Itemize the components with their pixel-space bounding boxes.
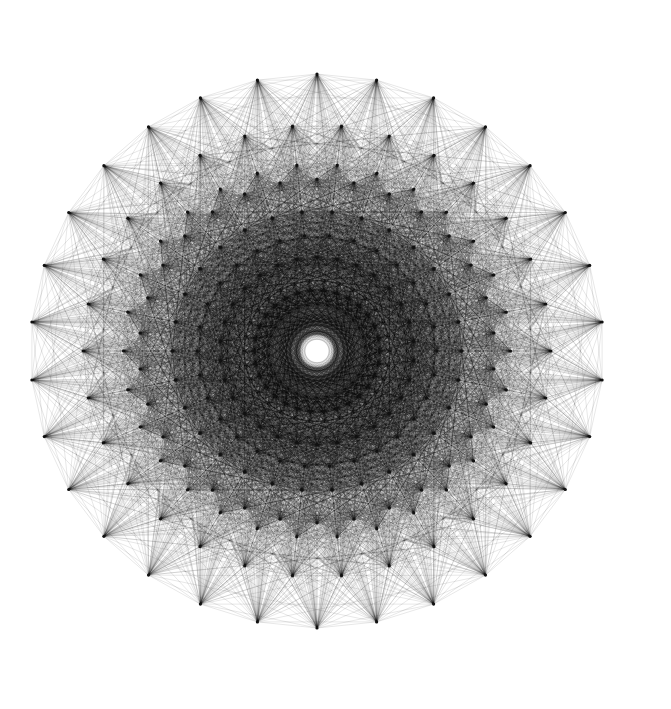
graph-vertex [425,397,428,400]
graph-vertex [67,211,70,214]
graph-vertex [322,289,325,292]
graph-vertex [264,314,267,317]
graph-vertex [291,125,294,128]
graph-vertex [278,460,281,463]
graph-vertex [432,96,435,99]
graph-vertex [412,340,415,343]
graph-vertex [255,450,258,453]
graph-vertex [206,397,209,400]
graph-vertex [328,465,331,468]
graph-vertex [303,465,306,468]
graph-vertex [218,245,221,248]
graph-vertex [295,441,298,444]
graph-vertex [195,349,198,352]
graph-vertex [331,210,334,213]
graph-vertex [340,125,343,128]
graph-vertex [159,181,162,184]
graph-vertex [388,564,391,567]
graph-vertex [146,403,149,406]
graph-vertex [396,436,399,439]
graph-vertex [358,395,361,398]
graph-vertex [198,545,201,548]
graph-vertex [347,297,350,300]
graph-vertex [199,96,202,99]
graph-vertex [138,331,141,334]
graph-vertex [388,412,391,415]
graph-vertex [223,320,226,323]
graph-vertex [331,489,334,492]
graph-vertex [425,302,428,305]
graph-vertex [146,296,149,299]
graph-vertex [484,574,487,577]
graph-vertex [315,626,318,629]
graph-vertex [309,410,312,413]
graph-vertex [412,188,415,191]
graph-vertex [375,527,378,530]
graph-vertex [375,450,378,453]
graph-vertex [256,620,259,623]
graph-vertex [278,181,281,184]
graph-vertex [198,432,201,435]
graph-vertex [432,545,435,548]
graph-vertex [360,483,363,486]
graph-vertex [219,340,222,343]
graph-vertex [529,164,532,167]
graph-vertex [171,349,174,352]
graph-vertex [375,249,378,252]
graph-vertex [271,483,274,486]
graph-vertex [303,234,306,237]
graph-vertex [433,325,436,328]
graph-vertex [375,79,378,82]
graph-vertex [67,488,70,491]
graph-vertex [448,234,451,237]
graph-vertex [273,304,276,307]
graph-vertex [335,291,338,294]
graph-vertex [243,412,246,415]
graph-vertex [258,273,261,276]
graph-vertex [223,378,226,381]
graph-vertex [373,374,376,377]
graph-vertex [355,264,358,267]
graph-vertex [315,521,318,524]
graph-vertex [432,603,435,606]
graph-vertex [174,379,177,382]
graph-vertex [126,311,129,314]
graph-vertex [413,418,416,421]
graph-vertex [367,385,370,388]
graph-vertex [601,378,604,381]
graph-vertex [353,460,356,463]
graph-vertex [43,264,46,267]
graph-vertex [186,488,189,491]
graph-vertex [159,517,162,520]
graph-vertex [102,258,105,261]
graph-vertex [470,263,473,266]
graph-vertex [235,436,238,439]
graph-vertex [328,234,331,237]
graph-vertex [355,435,358,438]
graph-vertex [254,337,257,340]
graph-vertex [219,188,222,191]
graph-vertex [373,273,376,276]
graph-vertex [396,263,399,266]
graph-vertex [472,459,475,462]
graph-vertex [470,435,473,438]
graph-vertex [460,349,463,352]
graph-vertex [315,255,318,258]
graph-vertex [159,459,162,462]
graph-vertex [336,441,339,444]
graph-vertex [309,289,312,292]
graph-vertex [102,441,105,444]
graph-vertex [544,302,547,305]
graph-vertex [485,296,488,299]
graph-vertex [126,388,129,391]
graph-vertex [243,507,246,510]
graph-vertex [388,287,391,290]
graph-vertex [300,210,303,213]
graph-vertex [388,228,391,231]
graph-vertex [256,172,259,175]
graph-vertex [258,325,261,328]
graph-vertex [235,263,238,266]
graph-vertex [159,240,162,243]
graph-vertex [322,410,325,413]
graph-vertex [375,620,378,623]
